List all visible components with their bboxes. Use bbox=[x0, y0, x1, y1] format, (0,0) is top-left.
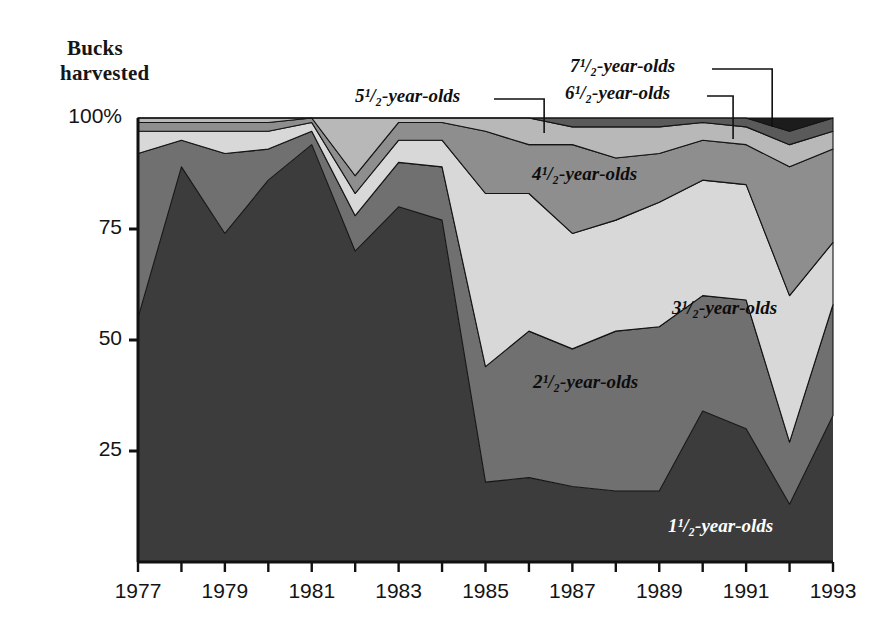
y-axis-tick-label: 100% bbox=[40, 104, 122, 128]
area-bands bbox=[138, 118, 833, 562]
x-axis-tick-label: 1981 bbox=[267, 579, 357, 603]
band-label-1-5-year-olds: 1¹/₂-year-olds bbox=[668, 515, 773, 537]
y-axis-tick-label: 25 bbox=[40, 437, 122, 461]
callout-label-5-5-year-olds: 5¹/₂-year-olds bbox=[355, 85, 460, 107]
chart-axis-title-line1: Bucks bbox=[67, 36, 123, 61]
x-axis-tick-label: 1977 bbox=[93, 579, 183, 603]
x-axis-tick-label: 1979 bbox=[180, 579, 270, 603]
band-label-3-5-year-olds: 3¹/₂-year-olds bbox=[672, 297, 777, 319]
x-axis-tick-label: 1989 bbox=[614, 579, 704, 603]
callout-label-7-5-year-olds: 7¹/₂-year-olds bbox=[570, 55, 675, 77]
x-axis-tick-label: 1993 bbox=[788, 579, 874, 603]
y-axis-tick-label: 75 bbox=[40, 215, 122, 239]
band-label-2-5-year-olds: 2¹/₂-year-olds bbox=[533, 371, 638, 393]
band-label-4-5-year-olds: 4¹/₂-year-olds bbox=[532, 163, 637, 185]
chart-axis-title-line2: harvested bbox=[60, 61, 149, 86]
y-axis-tick-label: 50 bbox=[40, 326, 122, 350]
chart-root: Bucks harvested 100%755025 1977197919811… bbox=[0, 0, 874, 620]
x-axis-tick-label: 1991 bbox=[701, 579, 791, 603]
x-axis-tick-label: 1985 bbox=[441, 579, 531, 603]
x-axis-tick-label: 1983 bbox=[354, 579, 444, 603]
callout-label-6-5-year-olds: 6¹/₂-year-olds bbox=[565, 82, 670, 104]
x-axis-tick-label: 1987 bbox=[527, 579, 617, 603]
